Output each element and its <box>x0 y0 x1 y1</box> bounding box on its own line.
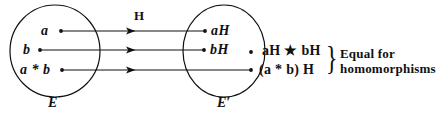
codomain-point-product <box>249 68 253 72</box>
map-label-H: H <box>134 9 144 22</box>
annotation-line-1: Equal for <box>340 46 436 61</box>
domain-set-label: E <box>48 96 57 110</box>
codomain-point-star-product <box>249 50 253 54</box>
annotation-text: Equal for homomorphisms <box>340 46 436 76</box>
formula-star-product: aH ★ bH <box>262 44 321 58</box>
annotation-line-2: homomorphisms <box>340 61 436 76</box>
map-arrow-row-1 <box>59 29 207 33</box>
codomain-set-label: E′ <box>217 96 230 110</box>
map-arrow-row-2 <box>38 48 206 52</box>
domain-element-a-star-b: a * b <box>20 63 51 77</box>
map-arrow-row-3 <box>60 68 253 72</box>
domain-element-a: a <box>41 24 49 38</box>
formula-product-image: (a * b) H <box>259 63 314 77</box>
codomain-point-bH <box>202 48 206 52</box>
codomain-point-aH <box>203 29 207 33</box>
codomain-element-bH: bH <box>210 43 229 57</box>
domain-element-b: b <box>23 43 31 57</box>
grouping-brace: } <box>326 41 337 75</box>
codomain-element-aH: aH <box>211 24 230 38</box>
homomorphism-diagram: a b a * b E H aH bH E′ aH ★ bH (a * b) H… <box>0 0 436 120</box>
